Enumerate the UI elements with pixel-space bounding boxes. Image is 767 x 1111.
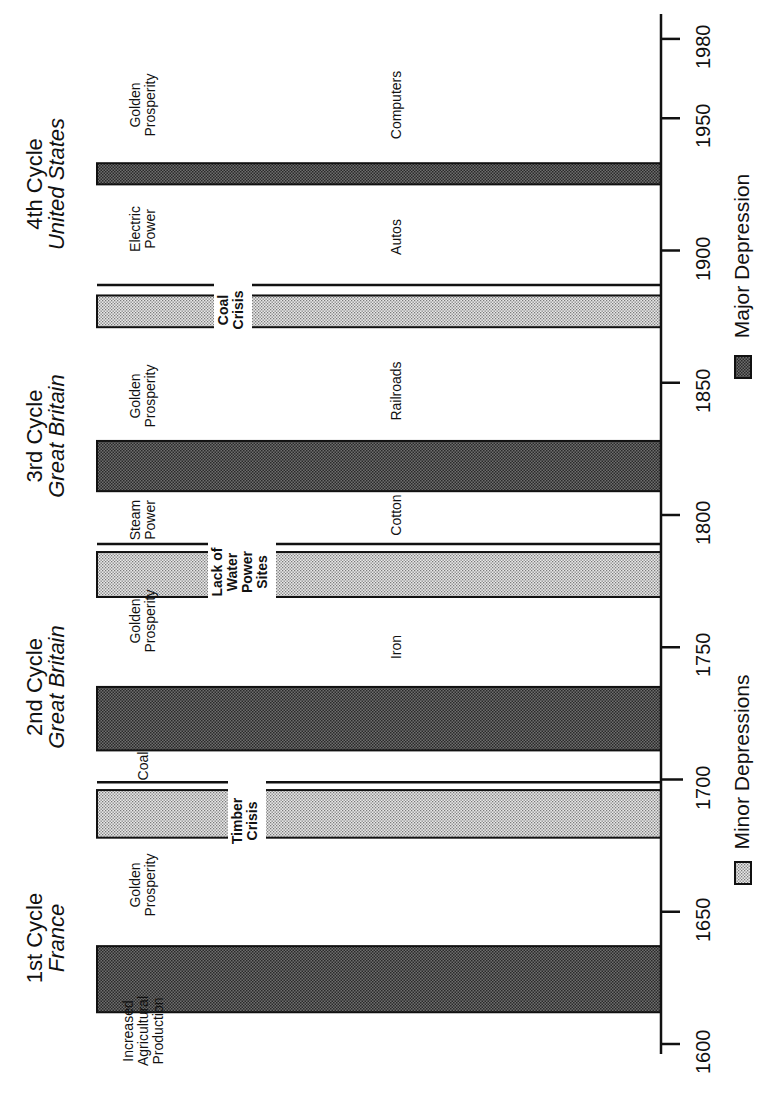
technology-label: Railroads [389, 346, 405, 436]
era-label: GoldenProsperity [128, 830, 158, 940]
crisis-label: TimberCrisis [228, 778, 266, 864]
axis-tick-label: 1980 [693, 9, 715, 69]
axis-tick-label: 1950 [693, 88, 715, 148]
axis-tick-label: 1900 [693, 221, 715, 281]
axis-tick-label: 1850 [693, 353, 715, 413]
chart-canvas [0, 0, 767, 1111]
technology-label: Cotton [389, 470, 405, 560]
era-label: ElectricPower [128, 174, 158, 284]
axis-tick-label: 1600 [693, 1014, 715, 1074]
minor-depression-bar [97, 552, 661, 597]
legend-label: Minor Depressions [731, 667, 755, 857]
era-label: Coal [136, 711, 151, 821]
minor-legend-swatch [735, 862, 751, 884]
era-label: GoldenProsperity [128, 341, 158, 451]
major-depression-bar [97, 163, 661, 184]
major-depression-bar [97, 441, 661, 491]
legend-label: Major Depression [731, 161, 755, 351]
crisis-label: Lack ofWaterPowerSites [208, 529, 276, 615]
cycle-title: 4th CycleUnited States [24, 104, 70, 264]
minor-depression-bar [97, 790, 661, 838]
economic-cycles-chart: 1600165017001750180018501900195019801st … [0, 0, 767, 1111]
era-label: GoldenProsperity [128, 50, 158, 160]
era-label: SteamPower [128, 465, 158, 575]
major-legend-swatch [735, 356, 751, 378]
crisis-label: CoalCrisis [214, 267, 252, 353]
cycle-title: 1st CycleFrance [24, 858, 70, 1018]
cycle-title: 2nd CycleGreat Britain [24, 607, 70, 767]
minor-depression-bar [97, 295, 661, 327]
major-depression-bar [97, 687, 661, 750]
technology-label: Computers [389, 60, 405, 150]
axis-tick-label: 1750 [693, 617, 715, 677]
technology-label: Iron [389, 602, 405, 692]
era-label: IncreasedAgriculturalProduction [121, 976, 166, 1086]
axis-tick-label: 1800 [693, 485, 715, 545]
axis-tick-label: 1650 [693, 882, 715, 942]
axis-tick-label: 1700 [693, 750, 715, 810]
cycle-title: 3rd CycleGreat Britain [24, 356, 70, 516]
technology-label: Autos [389, 192, 405, 282]
major-depression-bar [97, 946, 661, 1012]
era-label: GoldenProsperity [128, 566, 158, 676]
